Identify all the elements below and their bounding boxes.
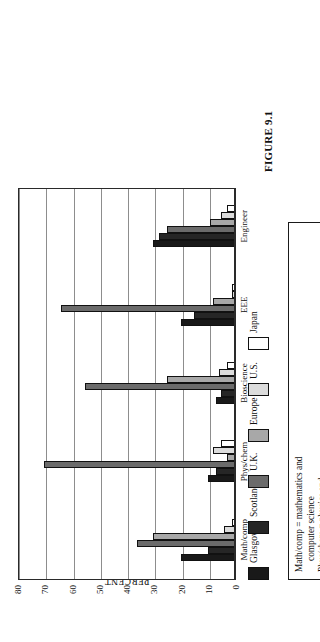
legend-label: Japan <box>249 311 259 333</box>
legend-label: Scotland <box>249 484 259 517</box>
bar-group-bars <box>19 501 235 579</box>
y-axis-tick-label: 60 <box>68 585 78 605</box>
legend-label: U.S. <box>249 362 259 379</box>
y-axis-tick-label: 30 <box>149 585 159 605</box>
y-axis-tick-label: 70 <box>40 585 50 605</box>
legend-item-uk: U.K. <box>248 475 269 488</box>
rotated-figure-stage: GlasgowScotlandU.K.EuropeU.S.Japan Math/… <box>0 0 296 642</box>
legend-label: U.K. <box>249 453 259 471</box>
bar-uk-engineer <box>167 226 235 233</box>
bar-europe-engineer <box>210 219 235 226</box>
y-axis-ticks: 01020304050607080 <box>18 582 236 606</box>
category-label: Engineer <box>239 210 249 242</box>
y-axis-tick-label: 0 <box>231 585 241 605</box>
legend-swatch <box>248 383 269 396</box>
plot-block: PERCENT 01020304050607080 Math/compPhys/… <box>18 188 236 580</box>
definitions-box: Math/comp = mathematics andcomputer scie… <box>288 222 296 580</box>
bar-glasgow-physchem <box>208 475 235 482</box>
bar-group-bars <box>19 344 235 422</box>
bar-group-bars <box>19 422 235 500</box>
y-axis-tick-label: 50 <box>95 585 105 605</box>
bar-glasgow-eee <box>181 319 236 326</box>
legend-item-europe: Europe <box>248 429 269 442</box>
legend-item-japan: Japan <box>248 337 269 350</box>
bar-europe-mathcomp <box>153 533 235 540</box>
legend-swatch <box>248 521 269 534</box>
bar-group: Engineer <box>19 187 235 265</box>
legend-swatch <box>248 475 269 488</box>
legend-item-glasgow: Glasgow <box>248 567 269 580</box>
figure-caption: FIGURE 9.1 <box>262 111 274 172</box>
definition-line: Math/comp = mathematics and <box>294 230 296 572</box>
bar-scotland-engineer <box>159 233 235 240</box>
bar-group-bars <box>19 187 235 265</box>
legend-label: Glasgow <box>249 529 259 563</box>
category-label: Bioscience <box>239 363 249 403</box>
bar-scotland-physchem <box>216 468 235 475</box>
bar-europe-eee <box>213 298 235 305</box>
bar-us-physchem <box>213 447 235 454</box>
bar-uk-physchem <box>44 461 235 468</box>
bar-scotland-eee <box>194 312 235 319</box>
y-axis-tick-label: 40 <box>122 585 132 605</box>
bar-glasgow-bioscience <box>216 397 235 404</box>
bar-glasgow-mathcomp <box>181 554 236 561</box>
legend-item-us: U.S. <box>248 383 269 396</box>
bar-group: Phys/chem <box>19 422 235 500</box>
category-label: Math/comp <box>239 519 249 561</box>
bar-group: EEE <box>19 265 235 343</box>
bar-glasgow-engineer <box>153 240 235 247</box>
bar-group: Math/comp <box>19 501 235 579</box>
plot-area: Math/compPhys/chemBioscienceEEEEngineer <box>18 188 236 580</box>
legend-label: Europe <box>249 398 259 425</box>
bar-group: Bioscience <box>19 344 235 422</box>
bar-group-bars <box>19 265 235 343</box>
legend-swatch <box>248 567 269 580</box>
bar-uk-mathcomp <box>137 540 235 547</box>
legend-item-scotland: Scotland <box>248 521 269 534</box>
category-label: EEE <box>239 296 249 313</box>
legend-swatch <box>248 429 269 442</box>
bar-scotland-mathcomp <box>208 547 235 554</box>
x-axis-baseline <box>234 189 235 579</box>
category-label: Phys/chem <box>239 442 249 482</box>
y-axis-tick-label: 20 <box>177 585 187 605</box>
figure-9-1: GlasgowScotlandU.K.EuropeU.S.Japan Math/… <box>0 0 296 642</box>
legend-swatch <box>248 337 269 350</box>
y-axis-tick-label: 10 <box>204 585 214 605</box>
y-axis-tick-label: 80 <box>13 585 23 605</box>
bar-europe-bioscience <box>167 376 235 383</box>
bar-us-bioscience <box>219 369 235 376</box>
bar-uk-eee <box>61 305 235 312</box>
bar-uk-bioscience <box>85 383 235 390</box>
